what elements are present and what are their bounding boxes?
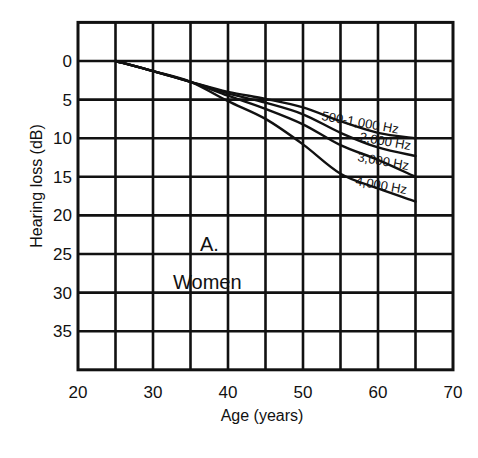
y-axis-ticks: 05101520253035 <box>53 52 72 341</box>
y-tick-label: 5 <box>63 91 72 110</box>
x-tick-label: 70 <box>444 383 463 402</box>
x-tick-label: 40 <box>219 383 238 402</box>
y-tick-label: 25 <box>53 245 72 264</box>
x-tick-label: 20 <box>69 383 88 402</box>
y-tick-label: 10 <box>53 129 72 148</box>
y-axis-label: Hearing loss (dB) <box>28 124 45 248</box>
y-tick-label: 30 <box>53 284 72 303</box>
y-tick-label: 35 <box>53 322 72 341</box>
y-tick-label: 0 <box>63 52 72 71</box>
x-tick-label: 60 <box>369 383 388 402</box>
y-tick-label: 20 <box>53 206 72 225</box>
x-axis-ticks: 203040506070 <box>69 383 463 402</box>
hearing-loss-chart: 500-1,000 Hz2,000 Hz3,000 Hz4,000 Hz 051… <box>0 0 478 458</box>
panel-subtitle: Women <box>173 271 242 293</box>
x-tick-label: 50 <box>294 383 313 402</box>
x-axis-label: Age (years) <box>221 407 304 424</box>
y-tick-label: 15 <box>53 168 72 187</box>
x-tick-label: 30 <box>144 383 163 402</box>
panel-label: A. <box>200 233 219 255</box>
